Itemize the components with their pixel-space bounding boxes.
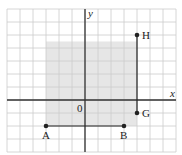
point-label-A: A — [42, 129, 50, 141]
point-G — [135, 111, 140, 116]
x-axis-label: x — [169, 87, 175, 99]
point-A — [44, 124, 49, 129]
point-B — [122, 124, 127, 129]
point-H — [135, 33, 140, 38]
y-axis-label: y — [87, 7, 93, 19]
point-label-H: H — [142, 29, 150, 41]
coordinate-grid: x y 0 HGAB — [0, 0, 182, 155]
point-label-G: G — [142, 107, 150, 119]
origin-label: 0 — [77, 102, 83, 114]
point-label-B: B — [120, 129, 127, 141]
